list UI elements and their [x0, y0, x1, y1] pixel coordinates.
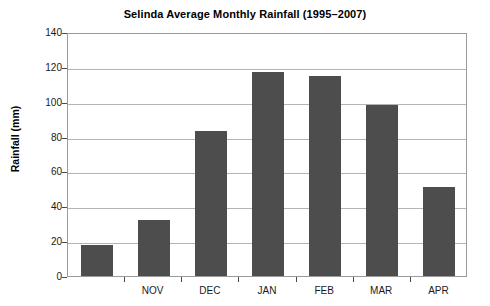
- x-axis-tick-mark: [353, 277, 354, 282]
- x-axis-tick-marks: [67, 277, 467, 282]
- x-axis-tick-mark: [410, 277, 411, 282]
- bar: [309, 76, 341, 276]
- x-axis-tick-mark: [238, 277, 239, 282]
- x-axis-tick-label: APR: [410, 285, 467, 297]
- rainfall-bar-chart: Selinda Average Monthly Rainfall (1995–2…: [0, 0, 490, 306]
- x-axis-tick-label: NOV: [124, 285, 181, 297]
- y-axis-tick-labels: 020406080100120140: [20, 33, 62, 277]
- bar: [252, 72, 284, 276]
- bar: [81, 245, 113, 276]
- y-axis-tick-label: 20: [22, 237, 62, 247]
- y-axis-tick-label: 140: [22, 28, 62, 38]
- bar-series: [68, 34, 466, 276]
- x-axis-tick-mark: [181, 277, 182, 282]
- x-axis-tick-label: MAR: [353, 285, 410, 297]
- y-axis-tick-label: 40: [22, 202, 62, 212]
- bar: [366, 105, 398, 276]
- chart-title: Selinda Average Monthly Rainfall (1995–2…: [0, 8, 490, 20]
- x-axis-tick-label: FEB: [296, 285, 353, 297]
- bar: [138, 220, 170, 276]
- plot-area: [67, 33, 467, 277]
- y-axis-tick-label: 0: [22, 272, 62, 282]
- x-axis-tick-labels: NOVDECJANFEBMARAPR: [67, 285, 467, 301]
- bar: [195, 131, 227, 276]
- y-axis-tick-label: 60: [22, 167, 62, 177]
- bar: [423, 187, 455, 276]
- x-axis-tick-label: DEC: [181, 285, 238, 297]
- y-axis-tick-label: 100: [22, 98, 62, 108]
- y-axis-tick-label: 120: [22, 63, 62, 73]
- y-axis-tick-label: 80: [22, 133, 62, 143]
- x-axis-tick-mark: [124, 277, 125, 282]
- x-axis-tick-mark: [296, 277, 297, 282]
- x-axis-tick-label: JAN: [238, 285, 295, 297]
